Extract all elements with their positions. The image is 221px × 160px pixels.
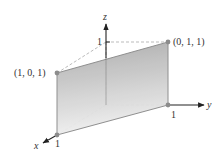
plane-diagram: z 1 y 1 x 1 (1, 0, 1) (0, 1, 1) xyxy=(0,0,221,160)
z-tick-label: 1 xyxy=(97,36,102,47)
y-tick-label: 1 xyxy=(171,109,176,120)
y-axis-label: y xyxy=(206,99,212,110)
plane-surface xyxy=(57,42,168,135)
point-1-0-1 xyxy=(55,71,60,76)
x-tick-label: 1 xyxy=(55,138,60,149)
point-0-1-1 xyxy=(166,40,171,45)
point-1-0-0 xyxy=(55,133,60,138)
point-label-1-0-1: (1, 0, 1) xyxy=(14,67,46,79)
x-axis-label: x xyxy=(33,140,39,151)
point-label-0-1-1: (0, 1, 1) xyxy=(173,36,205,48)
z-axis-label: z xyxy=(102,11,107,22)
point-0-1-0 xyxy=(166,103,171,108)
